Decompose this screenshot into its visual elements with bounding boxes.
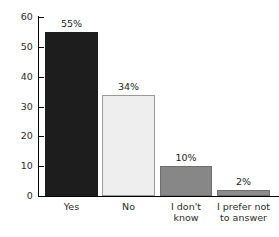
bar-value-label: 10%: [160, 153, 212, 163]
bar-2[interactable]: [160, 166, 212, 196]
category-label: Yes: [39, 201, 104, 212]
y-tick-label: 20: [6, 131, 33, 141]
y-tick-label: 0: [6, 191, 33, 201]
plot-area: [38, 17, 279, 196]
y-tick-label: 60: [6, 12, 33, 22]
bar-1[interactable]: [102, 95, 155, 196]
bar-chart: 0102030405060 55%34%10%2% YesNoI don't k…: [0, 0, 279, 237]
bars-layer: [38, 17, 279, 196]
bar-3[interactable]: [217, 190, 270, 196]
y-tick-label: 30: [6, 102, 33, 112]
bar-value-label: 2%: [217, 177, 270, 187]
y-tick-mark: [39, 196, 44, 197]
y-tick-label: 40: [6, 72, 33, 82]
y-tick-label: 50: [6, 42, 33, 52]
x-axis-line: [38, 196, 279, 197]
bar-value-label: 55%: [45, 19, 98, 29]
bar-0[interactable]: [45, 32, 98, 196]
category-label: No: [96, 201, 161, 212]
category-label: I prefer not to answer: [211, 201, 276, 223]
y-tick-label: 10: [6, 161, 33, 171]
bar-value-label: 34%: [102, 82, 155, 92]
category-label: I don't know: [154, 201, 218, 223]
